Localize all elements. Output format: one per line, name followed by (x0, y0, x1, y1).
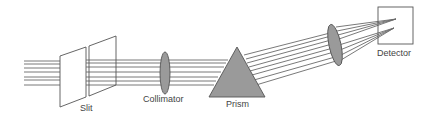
collimator-label: Collimator (143, 94, 184, 104)
slit-plate-back (89, 36, 116, 96)
slit-label: Slit (80, 103, 93, 113)
slit-plate-front (60, 47, 86, 107)
slit-to-collimator-beams (86, 60, 162, 85)
spectrometer-diagram: Slit Collimator Prism Detector (0, 0, 437, 120)
detector-label: Detector (377, 48, 411, 58)
prism-label: Prism (226, 99, 249, 109)
detector-box (378, 7, 413, 44)
input-beams (24, 61, 62, 85)
collimator-lens (160, 52, 170, 94)
dispersed-beams (244, 33, 336, 85)
